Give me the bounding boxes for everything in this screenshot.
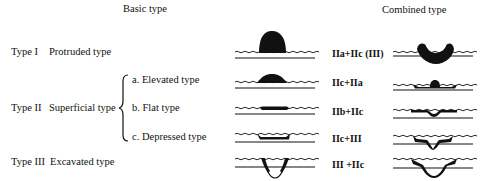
diagram-combined-3 bbox=[393, 104, 479, 126]
basic-type-header: Basic type bbox=[123, 3, 167, 15]
subtype-b-label: b. Flat type bbox=[132, 102, 180, 114]
type-3-name: Excavated type bbox=[50, 156, 114, 168]
diagram-combined-2 bbox=[393, 74, 479, 94]
diagram-combined-1 bbox=[393, 40, 479, 70]
diagram-combined-5 bbox=[393, 152, 479, 181]
subtype-brace bbox=[118, 73, 130, 143]
diagram-combined-4 bbox=[393, 128, 479, 154]
diagram-flat bbox=[235, 100, 321, 120]
diagram-protruded bbox=[235, 22, 321, 62]
combined-label-5: III +IIc bbox=[332, 159, 364, 171]
type-1-name: Protruded type bbox=[49, 46, 111, 58]
diagram-excavated bbox=[235, 153, 321, 181]
combined-label-2: IIc+IIa bbox=[332, 77, 363, 89]
combined-label-1: IIa+IIc (III) bbox=[332, 48, 384, 60]
type-2-label: Type II bbox=[11, 102, 41, 114]
diagram-depressed bbox=[235, 126, 321, 148]
type-1-label: Type I bbox=[11, 46, 38, 58]
combined-label-4: IIc+III bbox=[332, 133, 362, 145]
type-2-name: Superficial type bbox=[49, 102, 116, 114]
subtype-c-label: c. Depressed type bbox=[132, 131, 206, 143]
type-3-label: Type III bbox=[11, 156, 45, 168]
subtype-a-label: a. Elevated type bbox=[132, 74, 199, 86]
combined-label-3: IIb+IIc bbox=[332, 106, 363, 118]
diagram-elevated bbox=[235, 72, 321, 92]
combined-type-header: Combined type bbox=[382, 4, 446, 16]
